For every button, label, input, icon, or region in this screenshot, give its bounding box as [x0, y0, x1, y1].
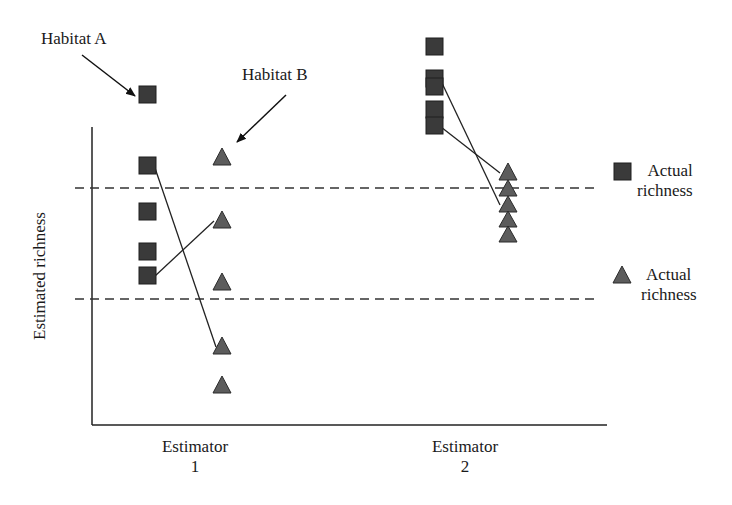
legend-square-line2: richness — [637, 181, 693, 201]
legend-triangle-label: Actual richness — [646, 265, 697, 305]
habitat-a-est1-squares — [139, 86, 156, 284]
estimator-1-label: Estimator 1 — [162, 437, 228, 477]
habitat-a-arrow — [82, 55, 135, 96]
estimator-1-line1: Estimator — [162, 437, 228, 457]
legend-square-line1: Actual — [644, 161, 693, 181]
legend-triangle-line2: richness — [641, 285, 697, 305]
y-axis-label: Estimated richness — [30, 212, 50, 340]
estimator-2-line1: Estimator — [432, 437, 498, 457]
habitat-b-arrow — [237, 95, 286, 142]
habitat-a-est2-squares — [426, 38, 443, 134]
chart-canvas — [0, 0, 732, 505]
connectors — [155, 81, 500, 347]
habitat-a-label: Habitat A — [41, 29, 107, 49]
habitat-b-est1-triangles — [213, 148, 231, 393]
legend-triangle-line1: Actual — [646, 265, 697, 285]
habitat-b-est2-triangles — [499, 163, 517, 242]
estimator-2-line2: 2 — [432, 457, 498, 477]
habitat-b-label: Habitat B — [242, 65, 308, 85]
estimator-2-label: Estimator 2 — [432, 437, 498, 477]
legend-square-label: Actual richness — [644, 161, 693, 201]
legend-square-icon — [614, 163, 631, 180]
estimator-1-line2: 1 — [162, 457, 228, 477]
legend-triangle-icon — [613, 266, 631, 283]
